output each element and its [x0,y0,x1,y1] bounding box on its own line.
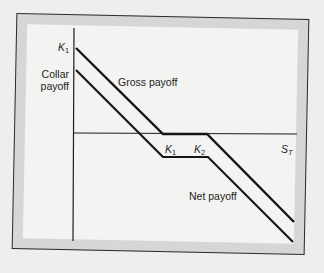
collar-payoff-label: Collar payoff [36,68,69,92]
gross-payoff-line [76,48,294,222]
st-base: S [281,143,288,155]
net-payoff-line [76,70,293,242]
strike-k1-sub: 1 [172,148,176,157]
k1-base: K [58,41,65,53]
collar-label-line1: Collar [36,68,69,80]
strike-k2-sub: 2 [201,148,205,157]
vertical-axis [73,28,74,241]
y-axis-k1-label: K1 [58,41,69,57]
gross-payoff-label: Gross payoff [118,76,177,88]
k1-sub: 1 [65,46,69,55]
strike-k2-base: K [194,143,201,155]
strike-k1-base: K [165,143,172,155]
net-payoff-label: Net payoff [189,190,237,202]
payoff-plot [0,0,324,273]
st-sub: T [288,148,293,157]
collar-label-line2: payoff [36,80,69,92]
diagram-page: K1 Collar payoff Gross payoff K1 K2 ST N… [0,0,324,273]
strike-k2-label: K2 [194,143,205,159]
st-axis-label: ST [281,143,293,159]
strike-k1-label: K1 [165,143,176,159]
